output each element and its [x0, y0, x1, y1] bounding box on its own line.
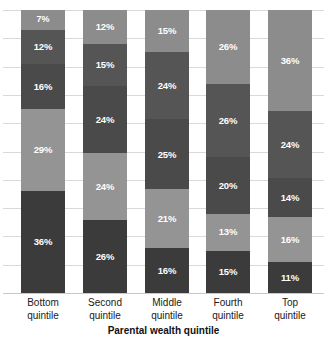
bar-second-quintile[interactable]: 12%15%24%24%26%	[83, 10, 127, 293]
category-label-line: Fourth	[194, 297, 262, 310]
bar-segment[interactable]: 24%	[268, 111, 312, 178]
category-label-second-quintile: Secondquintile	[71, 297, 139, 322]
category-axis-labels: BottomquintileSecondquintileMiddlequinti…	[0, 297, 327, 325]
bar-segment[interactable]: 15%	[145, 10, 189, 52]
bar-segment[interactable]: 24%	[145, 52, 189, 119]
category-label-line: quintile	[256, 310, 324, 323]
bar-segment[interactable]: 16%	[268, 217, 312, 262]
bar-segment[interactable]: 16%	[145, 248, 189, 293]
category-label-line: Top	[256, 297, 324, 310]
bar-bottom-quintile[interactable]: 7%12%16%29%36%	[21, 10, 65, 293]
category-label-line: Second	[71, 297, 139, 310]
bar-segment[interactable]: 36%	[268, 10, 312, 111]
category-label-line: quintile	[71, 310, 139, 323]
bar-segment[interactable]: 29%	[21, 109, 65, 191]
bar-segment[interactable]: 15%	[206, 251, 250, 293]
bar-segment[interactable]: 36%	[21, 191, 65, 293]
bar-segment[interactable]: 14%	[268, 178, 312, 217]
bar-segment[interactable]: 20%	[206, 157, 250, 214]
bar-segment[interactable]: 26%	[206, 10, 250, 84]
bar-segment[interactable]: 26%	[206, 84, 250, 158]
category-label-top-quintile: Topquintile	[256, 297, 324, 322]
stacked-bar-chart: 7%12%16%29%36%12%15%24%24%26%15%24%25%21…	[0, 0, 327, 341]
category-label-line: Bottom	[9, 297, 77, 310]
category-label-line: Middle	[133, 297, 201, 310]
category-label-line: quintile	[133, 310, 201, 323]
category-label-bottom-quintile: Bottomquintile	[9, 297, 77, 322]
plot-area: 7%12%16%29%36%12%15%24%24%26%15%24%25%21…	[0, 8, 327, 294]
bar-segment[interactable]: 24%	[83, 153, 127, 220]
bar-segment[interactable]: 25%	[145, 119, 189, 189]
bar-segment[interactable]: 26%	[83, 220, 127, 293]
bar-segment[interactable]: 13%	[206, 214, 250, 251]
bar-segment[interactable]: 11%	[268, 262, 312, 293]
bar-fourth-quintile[interactable]: 26%26%20%13%15%	[206, 10, 250, 293]
category-label-line: quintile	[194, 310, 262, 323]
bar-middle-quintile[interactable]: 15%24%25%21%16%	[145, 10, 189, 293]
x-axis-title: Parental wealth quintile	[0, 325, 327, 336]
bar-segment[interactable]: 12%	[21, 30, 65, 64]
bar-segment[interactable]: 16%	[21, 64, 65, 109]
bar-segment[interactable]: 15%	[83, 44, 127, 86]
bar-segment[interactable]: 12%	[83, 10, 127, 44]
bar-segment[interactable]: 21%	[145, 189, 189, 248]
category-label-middle-quintile: Middlequintile	[133, 297, 201, 322]
bar-top-quintile[interactable]: 36%24%14%16%11%	[268, 10, 312, 293]
category-label-fourth-quintile: Fourthquintile	[194, 297, 262, 322]
bar-segment[interactable]: 24%	[83, 86, 127, 153]
category-label-line: quintile	[9, 310, 77, 323]
bar-group: 7%12%16%29%36%12%15%24%24%26%15%24%25%21…	[0, 8, 327, 294]
bar-segment[interactable]: 7%	[21, 10, 65, 30]
